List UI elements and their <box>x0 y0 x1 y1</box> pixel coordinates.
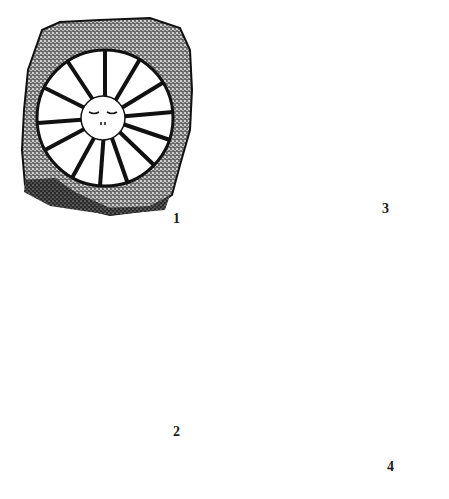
figure-label-2: 2 <box>173 425 180 439</box>
panel-1-sun-stone <box>22 18 192 215</box>
figure-canvas <box>0 0 449 499</box>
figure-label-4: 4 <box>387 460 394 474</box>
figure-label-3: 3 <box>382 202 389 216</box>
sun-face <box>81 96 125 140</box>
figure-label-1: 1 <box>173 212 180 226</box>
